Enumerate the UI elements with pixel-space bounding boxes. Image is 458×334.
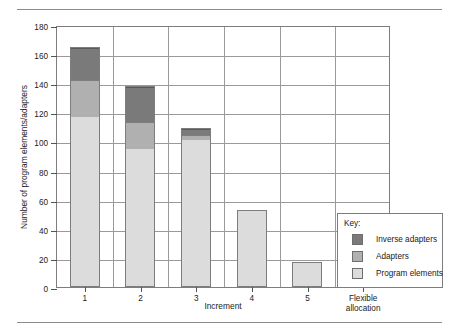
y-axis-tick-label: 100 [34, 139, 48, 148]
bar-slot [168, 27, 224, 287]
legend-entry-label: Inverse adapters [376, 235, 437, 244]
bar-segment[interactable] [182, 140, 210, 286]
bar-segment[interactable] [71, 117, 99, 286]
legend-entry[interactable]: Inverse adapters [344, 231, 442, 248]
bar-segment[interactable] [126, 87, 154, 122]
chart-bar[interactable] [70, 47, 100, 287]
chart-bar[interactable] [181, 128, 211, 287]
legend-swatch-icon [352, 234, 363, 245]
legend-entry[interactable]: Adapters [344, 248, 442, 265]
x-axis-tick [308, 287, 309, 292]
bar-segment[interactable] [126, 122, 154, 149]
bar-slot [57, 27, 113, 287]
legend-title: Key: [344, 219, 442, 228]
bottom-horizontal-rule [17, 322, 442, 323]
legend-entry-label: Program elements [376, 269, 443, 278]
chart-legend: Key: Inverse adaptersAdaptersProgram ele… [337, 213, 443, 288]
legend-swatch-icon [352, 251, 363, 262]
chart-bar[interactable] [237, 210, 267, 287]
bar-slot [224, 27, 280, 287]
y-axis-tick-label: 60 [39, 197, 48, 206]
bar-segment[interactable] [126, 149, 154, 286]
chart-bar[interactable] [125, 86, 155, 287]
legend-swatch-icon [352, 268, 363, 279]
chart-bar[interactable] [292, 262, 322, 287]
y-axis-tick-label: 160 [34, 52, 48, 61]
y-axis-tick-label: 140 [34, 81, 48, 90]
bar-segment[interactable] [238, 211, 266, 286]
y-axis-tick [51, 289, 57, 290]
bar-slot [280, 27, 336, 287]
y-axis-tick-label: 20 [39, 255, 48, 264]
legend-entry[interactable]: Program elements [344, 265, 442, 282]
bar-segment[interactable] [71, 48, 99, 80]
legend-entry-list: Inverse adaptersAdaptersProgram elements [344, 231, 442, 282]
x-axis-tick [85, 287, 86, 292]
x-axis-tick [196, 287, 197, 292]
top-horizontal-rule [17, 9, 442, 10]
bar-slot [113, 27, 169, 287]
legend-entry-label: Adapters [376, 252, 409, 261]
y-axis-title: Number of program elements/adapters [18, 26, 30, 288]
x-axis-tick [141, 287, 142, 292]
y-axis-tick-label: 0 [43, 285, 48, 294]
bar-segment[interactable] [71, 80, 99, 117]
y-axis-tick-label: 80 [39, 168, 48, 177]
y-axis-tick-label: 40 [39, 226, 48, 235]
x-axis-tick [252, 287, 253, 292]
y-axis-tick-label: 180 [34, 23, 48, 32]
bar-segment[interactable] [293, 263, 321, 286]
x-axis-title: Increment [56, 301, 390, 311]
y-axis-tick-label: 120 [34, 110, 48, 119]
